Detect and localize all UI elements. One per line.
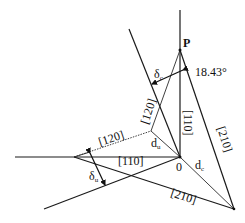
point-p-marker [179, 49, 182, 52]
direction-210-bottom-label: [210] [169, 186, 198, 207]
diagram-svg: P 18.43° 0 δc δu du dc [110] [110] [120]… [0, 0, 245, 223]
delta-c-label: δc [154, 67, 163, 82]
d-c-label: dc [195, 158, 204, 173]
lower-left-line [44, 157, 180, 209]
crystallographic-diagram: P 18.43° 0 δc δu du dc [110] [110] [120]… [0, 0, 245, 223]
p-to-du-120-line [151, 50, 180, 131]
bottom-right-vertex-marker [233, 208, 236, 211]
direction-110-horizontal-label: [110] [118, 154, 144, 168]
origin-label: 0 [176, 160, 182, 174]
direction-120-left-label: [120] [97, 128, 126, 149]
direction-110-vertical-label: [110] [181, 110, 195, 136]
left-vertex-tick [74, 152, 90, 157]
direction-120-upper-label: [120] [138, 97, 159, 126]
angle-label: 18.43° [195, 65, 227, 79]
direction-210-right-label: [210] [214, 125, 235, 154]
point-p-label: P [183, 36, 190, 50]
delta-u-label: δu [89, 169, 99, 184]
origin-marker [179, 156, 182, 159]
